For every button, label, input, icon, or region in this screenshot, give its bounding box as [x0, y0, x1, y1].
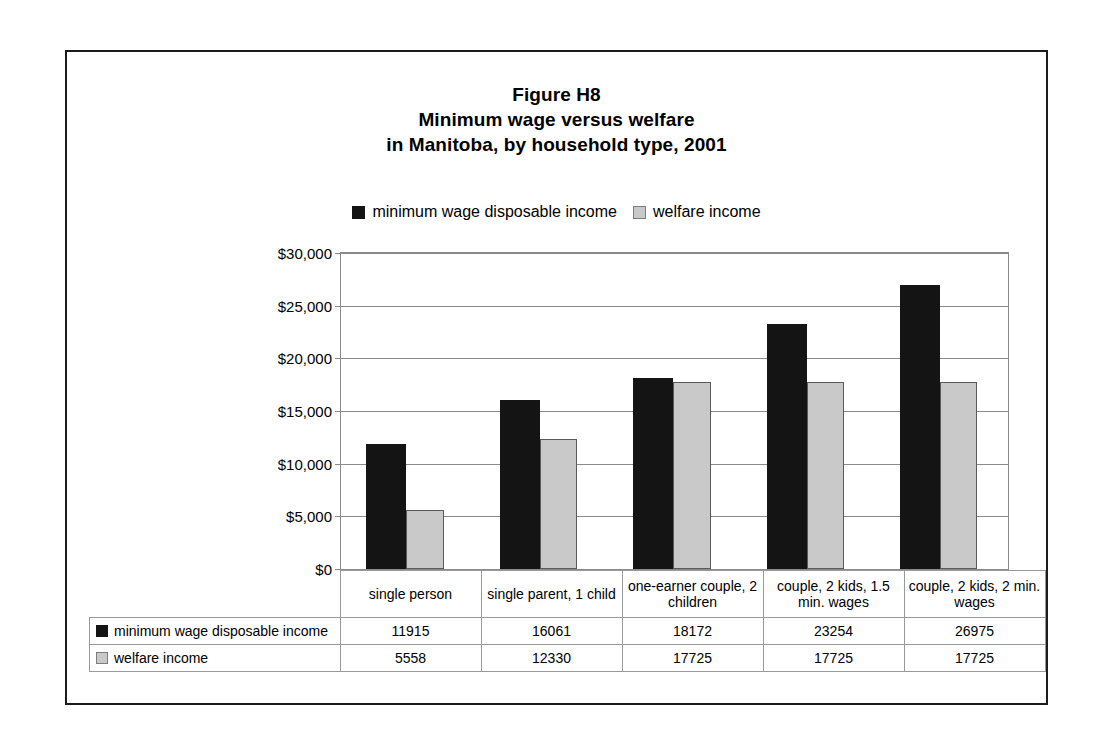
table-value-cell: 11915: [340, 618, 481, 645]
bar-series-1: [406, 510, 443, 569]
table-value-cell: 23254: [763, 618, 904, 645]
title-line-1: Figure H8: [67, 82, 1046, 107]
legend-label-series-0: minimum wage disposable income: [372, 204, 617, 220]
bar-group: [608, 253, 741, 569]
table-category-cell: couple, 2 kids, 1.5 min. wages: [763, 571, 904, 618]
y-axis-tick-label: $25,000: [278, 298, 332, 313]
bar-group: [341, 253, 474, 569]
table-key-label-series-1: welfare income: [114, 650, 208, 666]
y-axis-tick-label: $20,000: [278, 351, 332, 366]
table-value-cell: 12330: [481, 645, 622, 672]
data-table: single personsingle parent, 1 childone-e…: [89, 570, 1046, 672]
table-key-series-0: minimum wage disposable income: [90, 618, 341, 645]
title-line-3: in Manitoba, by household type, 2001: [67, 132, 1046, 157]
y-axis-tick-label: $10,000: [278, 456, 332, 471]
legend-swatch-icon-series-0: [352, 206, 365, 219]
bar-series-1: [807, 382, 844, 569]
bar-series-0: [500, 400, 540, 569]
bar-series-1: [540, 439, 577, 569]
table-value-cell: 18172: [622, 618, 763, 645]
table-row-series-0: minimum wage disposable income 119151606…: [90, 618, 1046, 645]
table-value-cell: 5558: [340, 645, 481, 672]
table-swatch-icon-series-0: [96, 625, 108, 637]
bar-group: [741, 253, 874, 569]
table-category-cell: couple, 2 kids, 2 min. wages: [904, 571, 1045, 618]
table-category-cell: single person: [340, 571, 481, 618]
table-key-series-1: welfare income: [90, 645, 341, 672]
bar-series-0: [633, 378, 673, 569]
table-corner-cell: [90, 571, 341, 618]
y-axis-tick-label: $15,000: [278, 404, 332, 419]
table-key-label-series-0: minimum wage disposable income: [114, 623, 328, 639]
table-row-categories: single personsingle parent, 1 childone-e…: [90, 571, 1046, 618]
plot-area: $30,000$25,000$20,000$15,000$10,000$5,00…: [340, 252, 1009, 570]
bar-group: [474, 253, 607, 569]
figure-title: Figure H8 Minimum wage versus welfare in…: [67, 82, 1046, 157]
table-category-cell: one-earner couple, 2 children: [622, 571, 763, 618]
table-value-cell: 16061: [481, 618, 622, 645]
bar-series-1: [940, 382, 977, 569]
bar-series-1: [673, 382, 710, 569]
bars-layer: [341, 253, 1008, 569]
bar-series-0: [366, 444, 406, 570]
plot-wrap: $30,000$25,000$20,000$15,000$10,000$5,00…: [340, 252, 1009, 570]
legend-item-minimum-wage-disposable-income: minimum wage disposable income: [352, 204, 617, 220]
legend-swatch-icon-series-1: [633, 206, 646, 219]
table-value-cell: 17725: [622, 645, 763, 672]
bar-series-0: [767, 324, 807, 569]
legend-item-welfare-income: welfare income: [633, 204, 761, 220]
table-category-cell: single parent, 1 child: [481, 571, 622, 618]
legend-label-series-1: welfare income: [653, 204, 761, 220]
table-row-series-1: welfare income 555812330177251772517725: [90, 645, 1046, 672]
figure-frame: Figure H8 Minimum wage versus welfare in…: [65, 50, 1048, 705]
table-swatch-icon-series-1: [96, 652, 108, 664]
y-axis-tick-label: $30,000: [278, 246, 332, 261]
table-value-cell: 26975: [904, 618, 1045, 645]
y-axis-tick-label: $5,000: [286, 509, 332, 524]
table-value-cell: 17725: [763, 645, 904, 672]
title-line-2: Minimum wage versus welfare: [67, 107, 1046, 132]
chart-legend: minimum wage disposable income welfare i…: [67, 204, 1046, 220]
table-value-cell: 17725: [904, 645, 1045, 672]
bar-group: [875, 253, 1008, 569]
bar-series-0: [900, 285, 940, 569]
